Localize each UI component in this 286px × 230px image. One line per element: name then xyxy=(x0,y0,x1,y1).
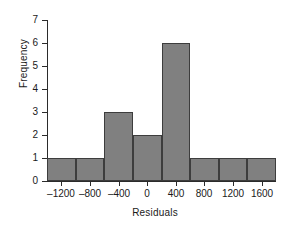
x-axis-title: Residuals xyxy=(40,207,270,218)
x-tick-mark xyxy=(176,181,177,186)
x-tick-mark xyxy=(61,181,62,186)
histogram-bar xyxy=(247,158,276,181)
histogram-bar xyxy=(47,158,76,181)
histogram-bar xyxy=(190,158,219,181)
x-tick-mark xyxy=(262,181,263,186)
y-tick-label: 4 xyxy=(20,84,38,94)
x-tick-label: 1600 xyxy=(242,188,282,199)
x-tick-mark xyxy=(204,181,205,186)
y-tick-label: 5 xyxy=(20,61,38,71)
histogram-bar xyxy=(76,158,105,181)
y-tick-label: 7 xyxy=(20,15,38,25)
x-tick-mark xyxy=(90,181,91,186)
y-tick-label: 6 xyxy=(20,38,38,48)
y-tick-label: 1 xyxy=(20,153,38,163)
x-tick-mark xyxy=(233,181,234,186)
plot-area xyxy=(47,20,276,181)
y-tick-label: 0 xyxy=(20,176,38,186)
y-tick-mark xyxy=(42,181,47,182)
y-tick-label: 3 xyxy=(20,107,38,117)
histogram-chart: Frequency 01234567 –1200–800–40004008001… xyxy=(0,0,286,230)
histogram-bar xyxy=(219,158,248,181)
histogram-bar xyxy=(162,43,191,181)
x-tick-mark xyxy=(147,181,148,186)
histogram-bar xyxy=(133,135,162,181)
x-axis-line xyxy=(47,181,276,182)
x-tick-mark xyxy=(119,181,120,186)
histogram-bar xyxy=(104,112,133,181)
y-tick-label: 2 xyxy=(20,130,38,140)
